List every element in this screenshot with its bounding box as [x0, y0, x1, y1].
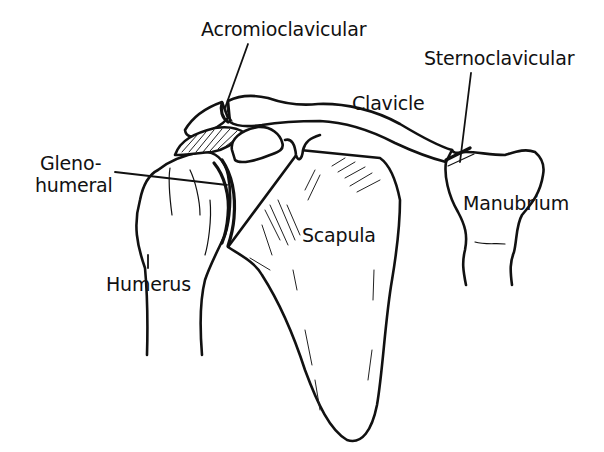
label-glenohumeral-line1: Gleno- [40, 152, 101, 174]
humerus-bone [136, 152, 230, 355]
label-humerus: Humerus [106, 273, 191, 295]
label-manubrium: Manubrium [463, 192, 569, 214]
label-scapula: Scapula [302, 224, 376, 246]
label-sternoclavicular: Sternoclavicular [424, 47, 574, 69]
label-clavicle: Clavicle [352, 92, 425, 114]
manubrium-bone [446, 150, 544, 285]
label-glenohumeral-line2: humeral [35, 174, 113, 196]
scapula-bone [228, 150, 400, 441]
label-acromioclavicular: Acromioclavicular [201, 18, 366, 40]
